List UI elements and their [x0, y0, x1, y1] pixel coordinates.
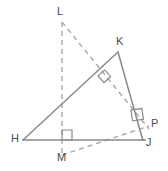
segment-KJ — [118, 52, 143, 141]
vertex-label-H: H — [11, 133, 19, 144]
vertex-dot-K — [117, 51, 119, 53]
segment-HK — [23, 52, 118, 140]
vertex-dot-J — [142, 139, 144, 141]
geometry-diagram: L K H P J M — [0, 0, 168, 171]
vertex-label-J: J — [146, 137, 152, 148]
vertex-label-M: M — [57, 152, 66, 163]
vertex-dot-H — [22, 139, 24, 141]
vertex-label-K: K — [116, 36, 123, 47]
segment-LP — [62, 22, 149, 129]
diagram-canvas — [0, 0, 168, 171]
right-angle-at-m — [62, 130, 72, 140]
right-angle-at-hk-intersection — [98, 70, 111, 83]
vertex-label-P: P — [151, 118, 158, 129]
vertex-label-L: L — [57, 6, 63, 17]
